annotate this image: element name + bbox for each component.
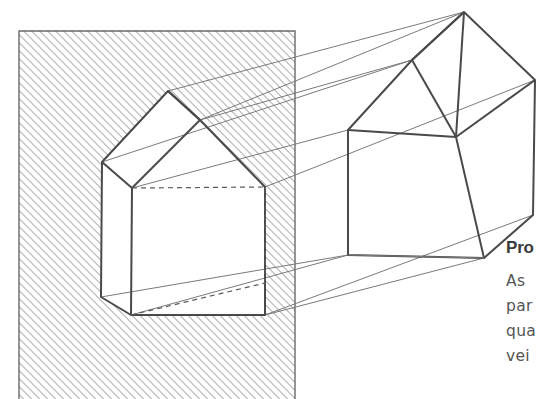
caption-body-line: qua — [506, 319, 536, 344]
caption-body-line: As — [506, 269, 536, 294]
caption-body: As par qua vei — [506, 269, 536, 369]
caption-title: Pro — [506, 238, 536, 257]
caption-body-line: vei — [506, 344, 536, 369]
object-house-outline — [348, 12, 535, 258]
caption-block: Pro As par qua vei — [506, 238, 536, 369]
object-house-construction-edges — [348, 255, 484, 258]
caption-body-line: par — [506, 294, 536, 319]
axonometric-projection-drawing — [0, 0, 536, 399]
figure-root: Pro As par qua vei — [0, 0, 536, 399]
